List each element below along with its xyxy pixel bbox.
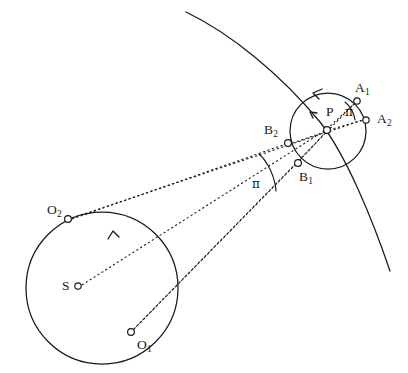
- angle-arc-pi-left: [259, 154, 276, 191]
- marker-o2: [65, 216, 72, 223]
- label-angle-pi-right: π: [345, 106, 353, 118]
- large-circle: [26, 212, 178, 364]
- label-s: S: [62, 279, 70, 293]
- label-o1-subscript: 1: [147, 344, 152, 354]
- label-a2-subscript: 2: [387, 118, 392, 128]
- label-b1: B1: [299, 170, 313, 184]
- dashed-chord-p-to-b2: [289, 132, 325, 144]
- label-a2: A2: [377, 112, 392, 126]
- geometry-figure: S O2 O1 P A1 A2 B2 B1 π π: [0, 0, 408, 373]
- marker-a2: [363, 117, 369, 123]
- marker-s: [75, 283, 81, 289]
- label-b2: B2: [264, 123, 278, 137]
- figure-canvas: [0, 0, 408, 373]
- label-o2-subscript: 2: [57, 209, 62, 219]
- marker-b1: [295, 160, 302, 167]
- marker-o1: [128, 329, 135, 336]
- marker-p: [324, 127, 331, 134]
- label-p: P: [326, 105, 334, 119]
- marker-b2: [285, 140, 292, 147]
- label-o2: O2: [47, 203, 62, 217]
- marker-a1: [354, 98, 360, 104]
- label-o1: O1: [137, 338, 152, 352]
- label-b2-subscript: 2: [273, 129, 278, 139]
- label-a1: A1: [355, 81, 370, 95]
- label-angle-pi-left: π: [252, 178, 260, 190]
- label-b1-subscript: 1: [308, 176, 313, 186]
- label-a1-subscript: 1: [365, 87, 370, 97]
- direction-arrow-large-circle: [108, 231, 119, 239]
- dashed-line-s-to-p: [82, 131, 324, 285]
